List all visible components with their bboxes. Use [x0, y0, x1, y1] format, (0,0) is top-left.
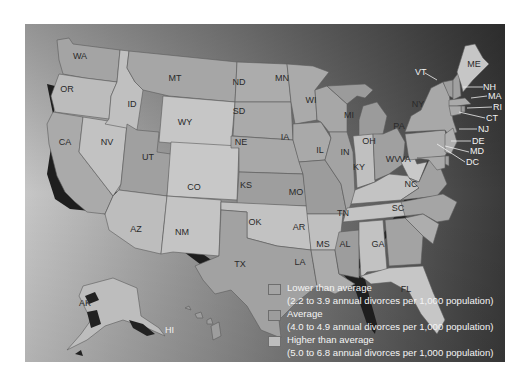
label-OR: OR: [60, 84, 74, 94]
label-ME: ME: [467, 59, 481, 69]
label-IN: IN: [341, 147, 350, 157]
label-KS: KS: [240, 180, 252, 190]
legend: Lower than average (2.2 to 3.9 annual di…: [268, 282, 508, 360]
label-AL: AL: [339, 239, 350, 249]
label-VT: VT: [415, 67, 427, 77]
state-WY[interactable]: [159, 96, 235, 148]
state-CO[interactable]: [167, 142, 239, 200]
legend-swatch-average: [268, 310, 281, 321]
legend-swatch-higher: [268, 336, 281, 347]
label-NV: NV: [101, 137, 114, 147]
label-HI: HI: [165, 325, 174, 335]
label-DC: DC: [466, 157, 479, 167]
label-PA: PA: [393, 121, 404, 131]
label-LA: LA: [294, 257, 305, 267]
label-WI: WI: [306, 95, 317, 105]
label-ND: ND: [233, 77, 246, 87]
legend-range: (2.2 to 3.9 annual divorces per 1,000 po…: [287, 295, 493, 308]
label-MA: MA: [488, 91, 502, 101]
label-IA: IA: [281, 132, 290, 142]
legend-item-lower: Lower than average (2.2 to 3.9 annual di…: [268, 282, 508, 307]
legend-label: Lower than average: [287, 282, 493, 295]
state-NM[interactable]: [161, 196, 221, 256]
label-UT: UT: [142, 152, 154, 162]
legend-label: Average: [287, 308, 493, 321]
label-DE: DE: [472, 136, 485, 146]
label-AR: AR: [293, 222, 306, 232]
legend-range: (5.0 to 6.8 annual divorces per 1,000 po…: [287, 347, 493, 360]
label-MD: MD: [470, 146, 484, 156]
label-AZ: AZ: [130, 224, 142, 234]
state-RI[interactable]: [461, 106, 465, 112]
label-TX: TX: [234, 259, 246, 269]
state-MS[interactable]: [335, 230, 359, 278]
legend-range: (4.0 to 4.9 annual divorces per 1,000 po…: [287, 321, 493, 334]
label-NE: NE: [235, 137, 248, 147]
state-CT[interactable]: [449, 106, 461, 116]
label-IL: IL: [316, 145, 324, 155]
label-CO: CO: [187, 182, 201, 192]
label-GA: GA: [371, 239, 384, 249]
legend-item-average: Average (4.0 to 4.9 annual divorces per …: [268, 308, 508, 333]
label-NJ: NJ: [478, 124, 489, 134]
label-NC: NC: [405, 179, 418, 189]
state-DE[interactable]: [445, 156, 449, 166]
state-OR[interactable]: [51, 74, 117, 119]
label-MO: MO: [289, 187, 304, 197]
label-MN: MN: [275, 73, 289, 83]
label-OH: OH: [362, 136, 376, 146]
label-NY: NY: [412, 99, 425, 109]
legend-item-higher: Higher than average (5.0 to 6.8 annual d…: [268, 334, 508, 359]
label-WV: WV: [386, 154, 401, 164]
label-AK: AK: [79, 298, 91, 308]
label-RI: RI: [493, 102, 502, 112]
label-ID: ID: [128, 99, 138, 109]
label-CA: CA: [59, 137, 72, 147]
label-KY: KY: [353, 162, 365, 172]
label-MI: MI: [344, 110, 354, 120]
state-PA[interactable]: [405, 130, 449, 160]
legend-swatch-lower: [268, 284, 281, 295]
label-MT: MT: [169, 73, 182, 83]
label-WY: WY: [178, 117, 193, 127]
label-NM: NM: [175, 227, 189, 237]
state-AL[interactable]: [359, 220, 387, 278]
legend-label: Higher than average: [287, 334, 493, 347]
label-VA: VA: [399, 154, 410, 164]
label-WA: WA: [73, 51, 87, 61]
label-SC: SC: [392, 203, 405, 213]
label-TN: TN: [337, 208, 349, 218]
label-SD: SD: [233, 106, 246, 116]
label-OK: OK: [248, 217, 261, 227]
label-MS: MS: [316, 239, 330, 249]
label-CT: CT: [486, 113, 498, 123]
